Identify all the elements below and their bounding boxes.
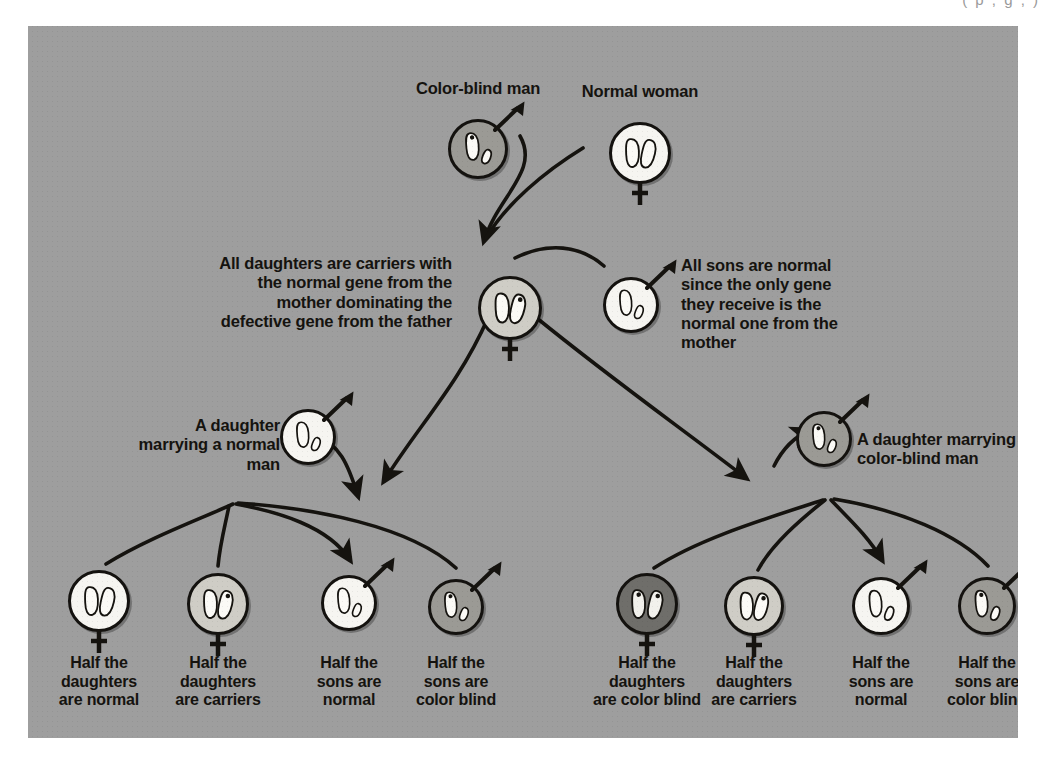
label-line: are normal [34,691,164,710]
label-half-daughters-carriers: Half thedaughtersare carriers [153,654,283,710]
label-line: daughters [689,673,819,692]
label-line: daughters [34,673,164,692]
person-disc-half-daughters-carriers[interactable] [187,573,249,635]
chromosome-pair-icon [71,573,127,629]
label-line: color blind [922,691,1018,710]
note-all-daughters-carriers: All daughters are carriers with the norm… [204,254,452,331]
note-all-sons-normal: All sons are normal since the only gene … [681,256,857,352]
person-disc-normal-woman[interactable] [609,122,671,184]
label-line: Half the [34,654,164,673]
label-line: Half the [153,654,283,673]
label-line: are carriers [689,691,819,710]
person-disc-color-blind-man-spouse[interactable] [796,411,852,467]
chromosome-pair-icon [190,576,246,632]
label-normal-woman: Normal woman [530,82,750,101]
label-normal-man-spouse: A daughter marrying a normal man [128,416,280,474]
label-line: Half the [689,654,819,673]
diagram-panel: Color-blind manNormal womanAll daughters… [28,26,1018,738]
person-disc-normal-man-spouse[interactable] [280,409,336,465]
chromosome-pair-icon [961,580,1013,632]
person-disc-half-sons-color-blind-right[interactable] [958,577,1016,635]
chromosome-pair-icon [324,578,374,628]
label-half-daughters-normal: Half thedaughtersare normal [34,654,164,710]
person-disc-half-sons-normal-right[interactable] [852,577,910,635]
label-half-sons-color-blind-right: Half thesons arecolor blind [922,654,1018,710]
label-line: are carriers [153,691,283,710]
person-disc-half-daughters-normal[interactable] [68,570,130,632]
person-disc-carrier-daughter[interactable] [478,276,542,340]
diagram-stage: ( p , g , ) [0,0,1056,769]
chromosome-pair-icon [481,279,539,337]
person-disc-color-blind-man[interactable] [448,119,508,179]
chromosome-pair-icon [606,280,656,330]
label-line: sons are [391,673,521,692]
chromosome-pair-icon [283,412,333,462]
person-disc-half-sons-color-blind[interactable] [428,579,484,635]
label-line: sons are [922,673,1018,692]
chromosome-pair-icon [451,122,505,176]
chromosome-pair-icon [612,125,668,181]
person-disc-half-sons-normal[interactable] [321,575,377,631]
label-color-blind-man-spouse: A daughter marrying color-blind man [857,430,1018,469]
clipped-top-caption: ( p , g , ) [600,0,1040,9]
label-half-sons-color-blind: Half thesons arecolor blind [391,654,521,710]
person-disc-normal-son[interactable] [603,277,659,333]
label-line: color blind [391,691,521,710]
label-half-daughters-carriers-right: Half thedaughtersare carriers [689,654,819,710]
label-line: Half the [922,654,1018,673]
label-line: daughters [153,673,283,692]
label-line: Half the [391,654,521,673]
chromosome-pair-icon [799,414,849,464]
person-disc-half-daughters-carriers-right[interactable] [724,576,784,636]
chromosome-pair-icon [431,582,481,632]
person-disc-half-daughters-color-blind[interactable] [616,573,678,635]
chromosome-pair-icon [619,576,675,632]
chromosome-pair-icon [727,579,781,633]
chromosome-pair-icon [855,580,907,632]
